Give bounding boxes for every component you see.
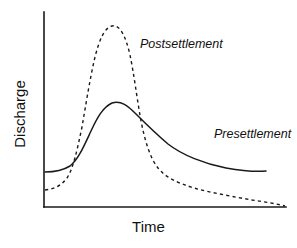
y-axis-title: Discharge	[12, 54, 28, 174]
hydrograph-figure: Postsettlement Presettlement Time Discha…	[0, 0, 297, 248]
x-axis-title: Time	[0, 219, 297, 235]
presettlement-series-label: Presettlement	[214, 128, 291, 141]
postsettlement-series-label: Postsettlement	[140, 38, 223, 51]
